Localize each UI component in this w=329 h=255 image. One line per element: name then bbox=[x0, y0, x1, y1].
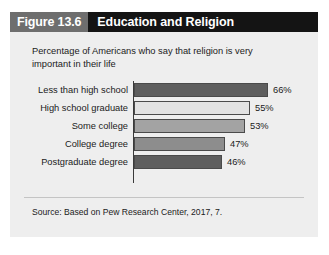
bar-row: Some college53% bbox=[10, 119, 318, 133]
bar-value-label: 66% bbox=[273, 83, 292, 97]
bar bbox=[134, 83, 268, 97]
bar bbox=[134, 137, 225, 151]
bar-chart: Less than high school66%High school grad… bbox=[10, 83, 318, 183]
chart-subtitle: Percentage of Americans who say that rel… bbox=[32, 45, 280, 72]
bar-category-label: Some college bbox=[72, 119, 128, 133]
bar-value-label: 47% bbox=[230, 137, 249, 151]
bar-category-label: High school graduate bbox=[40, 101, 128, 115]
bar bbox=[134, 101, 250, 115]
bar-value-label: 53% bbox=[250, 119, 269, 133]
bar-category-label: College degree bbox=[65, 137, 128, 151]
bar bbox=[134, 119, 245, 133]
bar-category-label: Postgraduate degree bbox=[41, 155, 128, 169]
bar bbox=[134, 155, 222, 169]
bar-row: College degree47% bbox=[10, 137, 318, 151]
bar-row: Less than high school66% bbox=[10, 83, 318, 97]
figure-title: Education and Religion bbox=[88, 12, 318, 32]
bar-category-label: Less than high school bbox=[38, 83, 128, 97]
source-note: Source: Based on Pew Research Center, 20… bbox=[32, 207, 302, 219]
bar-row: High school graduate55% bbox=[10, 101, 318, 115]
figure-header: Figure 13.6 Education and Religion bbox=[10, 12, 318, 32]
bar-value-label: 46% bbox=[227, 155, 246, 169]
bar-row: Postgraduate degree46% bbox=[10, 155, 318, 169]
figure-number-badge: Figure 13.6 bbox=[10, 12, 88, 32]
figure-body: Percentage of Americans who say that rel… bbox=[10, 32, 318, 237]
source-divider bbox=[24, 197, 304, 198]
figure-card: Figure 13.6 Education and Religion Perce… bbox=[10, 12, 318, 237]
bar-value-label: 55% bbox=[255, 101, 274, 115]
